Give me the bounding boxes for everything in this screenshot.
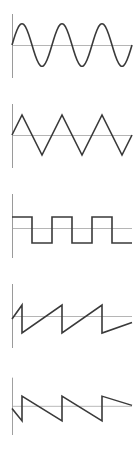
sawtooth-falling-wave-plot	[0, 360, 136, 450]
sawtooth-rising-wave-plot	[0, 270, 136, 360]
waveform-stack	[0, 0, 136, 462]
square-wave-path	[12, 217, 132, 243]
sawtooth-rising-wave-panel	[0, 270, 136, 360]
triangle-wave-plot	[0, 90, 136, 180]
square-wave-panel	[0, 180, 136, 270]
sawtooth-rising-wave-path	[12, 305, 132, 333]
sine-wave-plot	[0, 0, 136, 90]
sawtooth-falling-wave-panel	[0, 360, 136, 450]
square-wave-plot	[0, 180, 136, 270]
triangle-wave-panel	[0, 90, 136, 180]
sine-wave-panel	[0, 0, 136, 90]
sawtooth-falling-wave-path	[12, 396, 132, 421]
